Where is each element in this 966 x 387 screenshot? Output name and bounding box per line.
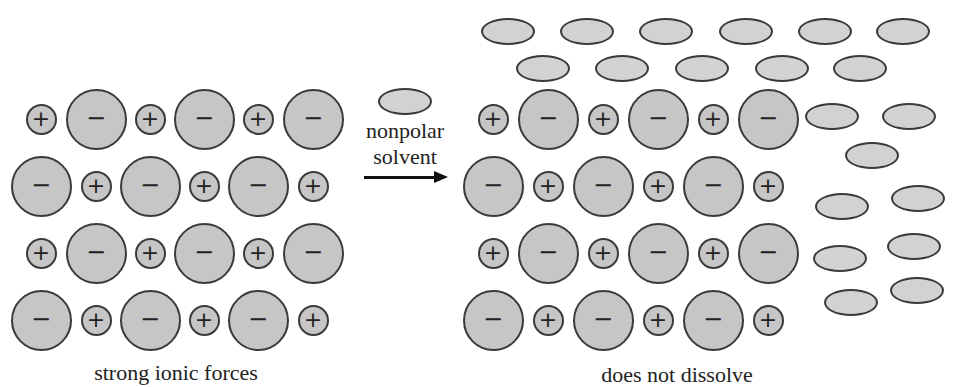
cation: +: [298, 171, 329, 202]
cation: +: [189, 305, 220, 336]
minus-icon: −: [703, 173, 723, 197]
cation: +: [189, 171, 220, 202]
solvent-molecule-icon: [882, 103, 936, 130]
cation: +: [643, 305, 674, 336]
anion: −: [738, 89, 799, 150]
minus-icon: −: [303, 240, 323, 264]
cation: +: [478, 238, 509, 269]
minus-icon: −: [703, 307, 723, 331]
minus-icon: −: [86, 106, 106, 130]
solvent-molecule-icon: [595, 55, 649, 82]
anion: −: [518, 223, 579, 284]
plus-icon: +: [649, 309, 667, 331]
cation: +: [478, 104, 509, 135]
solvent-molecule-icon: [378, 88, 432, 115]
cation: +: [698, 104, 729, 135]
arrow-label-nonpolar: nonpolar: [366, 118, 444, 144]
cation: +: [81, 171, 112, 202]
plus-icon: +: [195, 309, 213, 331]
cation: +: [753, 305, 784, 336]
minus-icon: −: [538, 106, 558, 130]
anion: −: [66, 89, 127, 150]
solvent-molecule-icon: [516, 55, 570, 82]
plus-icon: +: [87, 175, 105, 197]
minus-icon: −: [303, 106, 323, 130]
solvent-molecule-icon: [798, 18, 852, 45]
anion: −: [573, 290, 634, 351]
solvent-molecule-icon: [755, 55, 809, 82]
cation: +: [588, 104, 619, 135]
cation: +: [533, 171, 564, 202]
minus-icon: −: [86, 240, 106, 264]
minus-icon: −: [538, 240, 558, 264]
anion: −: [120, 156, 181, 217]
solvent-molecule-icon: [876, 18, 930, 45]
anion: −: [283, 223, 344, 284]
anion: −: [174, 223, 235, 284]
plus-icon: +: [594, 108, 612, 130]
anion: −: [66, 223, 127, 284]
cation: +: [298, 305, 329, 336]
cation: +: [81, 305, 112, 336]
plus-icon: +: [484, 242, 502, 264]
anion: −: [463, 290, 524, 351]
solvent-molecule-icon: [815, 193, 869, 220]
minus-icon: −: [593, 173, 613, 197]
anion: −: [228, 290, 289, 351]
plus-icon: +: [649, 175, 667, 197]
minus-icon: −: [140, 173, 160, 197]
plus-icon: +: [539, 309, 557, 331]
plus-icon: +: [704, 242, 722, 264]
solvent-molecule-icon: [824, 289, 878, 316]
anion: −: [628, 89, 689, 150]
solvent-molecule-icon: [833, 55, 887, 82]
anion: −: [683, 290, 744, 351]
minus-icon: −: [758, 240, 778, 264]
caption-does-not-dissolve: does not dissolve: [601, 362, 753, 387]
solvent-molecule-icon: [887, 233, 941, 260]
anion: −: [11, 156, 72, 217]
cation: +: [698, 238, 729, 269]
cation: +: [243, 104, 274, 135]
anion: −: [120, 290, 181, 351]
solvent-molecule-icon: [890, 277, 944, 304]
minus-icon: −: [248, 307, 268, 331]
plus-icon: +: [249, 108, 267, 130]
solvent-molecule-icon: [560, 18, 614, 45]
plus-icon: +: [249, 242, 267, 264]
cation: +: [135, 238, 166, 269]
plus-icon: +: [759, 309, 777, 331]
arrow-label-solvent: solvent: [373, 144, 437, 170]
cation: +: [643, 171, 674, 202]
minus-icon: −: [194, 106, 214, 130]
anion: −: [738, 223, 799, 284]
cation: +: [588, 238, 619, 269]
anion: −: [683, 156, 744, 217]
solvent-molecule-icon: [891, 185, 945, 212]
cation: +: [243, 238, 274, 269]
minus-icon: −: [483, 307, 503, 331]
plus-icon: +: [759, 175, 777, 197]
anion: −: [228, 156, 289, 217]
plus-icon: +: [87, 309, 105, 331]
plus-icon: +: [32, 108, 50, 130]
reaction-arrow-icon: [364, 176, 436, 179]
anion: −: [283, 89, 344, 150]
minus-icon: −: [248, 173, 268, 197]
minus-icon: −: [140, 307, 160, 331]
cation: +: [533, 305, 564, 336]
minus-icon: −: [648, 106, 668, 130]
anion: −: [174, 89, 235, 150]
plus-icon: +: [304, 309, 322, 331]
anion: −: [518, 89, 579, 150]
minus-icon: −: [648, 240, 668, 264]
minus-icon: −: [31, 173, 51, 197]
solvent-molecule-icon: [845, 142, 899, 169]
plus-icon: +: [141, 108, 159, 130]
solvent-molecule-icon: [813, 245, 867, 272]
caption-strong-ionic-forces: strong ionic forces: [94, 360, 258, 386]
plus-icon: +: [304, 175, 322, 197]
minus-icon: −: [593, 307, 613, 331]
solvent-molecule-icon: [675, 55, 729, 82]
ionic-solid-nonpolar-solvent-diagram: +−+−+−−+−+−++−+−+−−+−+−+ +−+−+−−+−+−++−+…: [0, 0, 966, 387]
